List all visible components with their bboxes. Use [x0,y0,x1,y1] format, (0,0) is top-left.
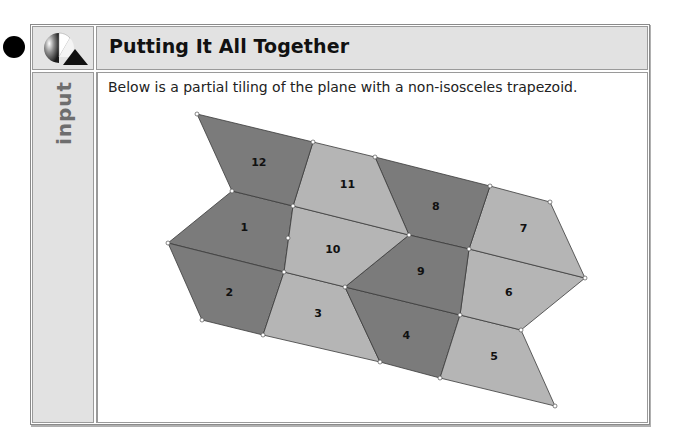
bullet-marker [3,36,25,58]
sidebar-tab: input [32,72,94,423]
content-area: Below is a partial tiling of the plane w… [96,72,648,423]
logo-cell [32,26,94,70]
header-bar: Putting It All Together [96,26,648,70]
circle-triangle-logo-icon [33,27,93,69]
page-title: Putting It All Together [109,35,349,57]
intro-text: Below is a partial tiling of the plane w… [108,79,577,95]
sidebar-label: input [52,81,76,145]
